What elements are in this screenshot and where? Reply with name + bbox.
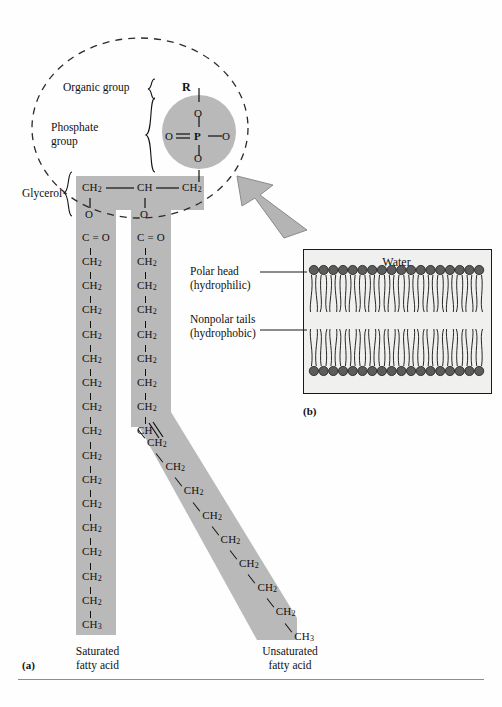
lipid-tail	[355, 275, 357, 312]
phosphate-oxygen-left: O	[165, 130, 173, 143]
ester-carbonyl-unsaturated: C = O	[137, 231, 165, 244]
lipid-tail	[326, 275, 327, 312]
chain-unit: CH2	[82, 255, 102, 268]
polar-head-circle	[475, 366, 484, 375]
polar-head-circle	[358, 366, 367, 375]
polar-head-circle	[348, 366, 357, 375]
lipid-tail	[442, 329, 443, 366]
lipid-tail	[359, 275, 360, 312]
phosphate-group-bracket	[144, 97, 158, 173]
lipid-tail	[432, 275, 434, 312]
polar-head-circle	[455, 366, 464, 375]
lipid-tail	[316, 329, 318, 366]
lipid-tail	[388, 275, 390, 312]
polar-head-circle	[445, 366, 454, 375]
polar-head-circle	[455, 265, 464, 274]
unsaturated-caption-line2: fatty acid	[245, 659, 335, 673]
lipid-bilayer-graphic	[305, 251, 488, 390]
chain-unit: CH2	[82, 545, 102, 558]
polar-head-circle	[475, 265, 484, 274]
unsaturated-chain-units-vertical: CH2CH2CH2CH2CH2CH2CH2CH	[131, 247, 175, 437]
lipid-tail	[456, 275, 457, 312]
polar-head-circle	[397, 265, 406, 274]
figure-bottom-rule	[18, 679, 484, 680]
polar-head-circle	[406, 366, 415, 375]
chain-unit: CH2	[165, 460, 185, 473]
chain-unit: CH2	[257, 581, 277, 594]
lipid-tail	[384, 329, 385, 366]
lipid-tail	[345, 275, 346, 312]
lipid-tail	[471, 275, 473, 312]
unsaturated-chain-units-diagonal: CH2CH2CH2CH2CH2CH2CH2CH2CH3	[131, 420, 331, 640]
chain-unit: CH2	[82, 303, 102, 316]
polar-head-circle	[426, 265, 435, 274]
polar-head-circle	[368, 265, 377, 274]
chain-unit: CH2	[82, 328, 102, 341]
r-group-label: R	[182, 80, 191, 94]
lipid-tail	[320, 329, 321, 366]
lipid-tail	[316, 275, 318, 312]
lipid-tail	[476, 329, 477, 366]
phosphate-oxygen-right: O	[222, 130, 230, 143]
lipid-tail	[404, 275, 405, 312]
phosphate-oxygen-bottom: O	[194, 152, 202, 165]
lipid-tail	[359, 329, 360, 366]
lipid-tail	[404, 329, 405, 366]
chain-unit: CH2	[137, 376, 157, 389]
glycerol-oxygen-right: O	[140, 208, 148, 221]
lipid-tail	[340, 329, 341, 366]
lipid-tail	[340, 275, 341, 312]
lipid-tail	[427, 275, 429, 312]
organic-group-label: Organic group	[63, 81, 130, 95]
chain-unit: CH2	[82, 352, 102, 365]
polar-head-circle	[387, 265, 396, 274]
panel-a-tag: (a)	[22, 659, 35, 672]
chain-unit: CH2	[184, 484, 204, 497]
lipid-tail	[379, 275, 380, 312]
chain-unit: CH2	[82, 279, 102, 292]
lipid-tail	[374, 329, 376, 366]
lipid-tail	[379, 329, 380, 366]
polar-head-circle	[329, 366, 338, 375]
polar-head-circle	[338, 265, 347, 274]
lipid-tail	[423, 329, 424, 366]
nonpolar-tails-label-line1: Nonpolar tails	[190, 313, 255, 327]
chain-unit: CH2	[239, 557, 259, 570]
polar-head-circle	[426, 366, 435, 375]
lipid-tail	[476, 275, 477, 312]
lipid-tail	[393, 329, 395, 366]
lipid-tail	[442, 275, 443, 312]
polar-head-circle	[465, 366, 474, 375]
saturated-chain-units: CH2CH2CH2CH2CH2CH2CH2CH2CH2CH2CH2CH2CH2C…	[76, 247, 120, 637]
lipid-tail	[427, 329, 429, 366]
glycerol-oxygen-left: O	[85, 208, 93, 221]
zoom-out-arrow-icon	[229, 168, 311, 240]
lipid-tail	[369, 329, 371, 366]
lipid-tail	[407, 275, 409, 312]
saturated-caption-line1: Saturated	[60, 645, 135, 659]
lipid-tail	[446, 275, 448, 312]
polar-head-circle	[319, 366, 328, 375]
lipid-tail	[462, 329, 463, 366]
chain-unit: CH2	[82, 473, 102, 486]
lipid-tail	[417, 275, 418, 312]
lipid-tail	[398, 275, 399, 312]
figure-phospholipid-structure: R O O P O O Organic group Phosphate grou…	[0, 0, 502, 707]
chain-unit: CH2	[202, 509, 222, 522]
phosphate-oxygen-top: O	[194, 107, 202, 120]
panel-b-tag: (b)	[303, 405, 316, 418]
glycerol-bracket	[62, 171, 75, 217]
chain-terminal: CH3	[294, 630, 314, 643]
chain-unit: CH2	[82, 521, 102, 534]
polar-head-circle	[465, 265, 474, 274]
lipid-tail	[355, 329, 357, 366]
lipid-tail	[407, 329, 409, 366]
lipid-tail	[446, 329, 448, 366]
ester-carbonyl-saturated: C = O	[82, 231, 110, 244]
nonpolar-tails-label-line2: (hydrophobic)	[190, 327, 256, 341]
phosphorus-atom: P	[194, 130, 201, 143]
chain-unit: CH2	[137, 352, 157, 365]
polar-head-circle	[329, 265, 338, 274]
lipid-tail	[432, 329, 434, 366]
chain-unit: CH2	[82, 497, 102, 510]
